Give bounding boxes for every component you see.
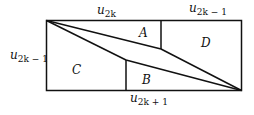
label-top-right: u2k − 1 xyxy=(189,1,227,17)
diagonal-upper-right xyxy=(161,49,242,91)
label-bottom: u2k + 1 xyxy=(130,91,168,107)
label-top-left: u2k xyxy=(97,3,116,19)
region-c-label: C xyxy=(72,63,81,77)
diagonal-lower-left xyxy=(47,21,127,61)
diagram-canvas: u2k u2k − 1 u2k − 1 u2k + 1 A B C D xyxy=(0,0,254,115)
region-a-label: A xyxy=(138,26,148,40)
region-b-label: B xyxy=(141,73,151,87)
region-d-label: D xyxy=(200,36,211,50)
label-left: u2k − 1 xyxy=(10,48,48,64)
